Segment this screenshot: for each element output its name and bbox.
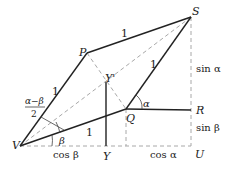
label-cos-alpha: cos α — [150, 149, 177, 160]
label-beta: β — [58, 135, 65, 146]
side-PS — [87, 17, 191, 53]
label-VQ-length: 1 — [86, 126, 93, 139]
label-S: S — [192, 5, 200, 18]
label-sin-alpha: sin α — [196, 63, 221, 74]
label-Y: Y — [103, 150, 112, 163]
label-P: P — [78, 46, 87, 59]
label-Q: Q — [126, 112, 135, 125]
label-alpha: α — [143, 98, 150, 109]
label-R: R — [195, 104, 204, 117]
label-V: V — [12, 139, 21, 152]
rhombus-trig-diagram: P S Q R U V Y Y' 1 1 1 1 α β α−β 2 sin α… — [0, 0, 233, 170]
label-sin-beta: sin β — [196, 122, 220, 133]
side-QS — [126, 17, 191, 109]
label-cos-beta: cos β — [53, 149, 79, 160]
segment-QR — [126, 109, 191, 110]
diagram-svg: P S Q R U V Y Y' 1 1 1 1 α β α−β 2 sin α… — [0, 0, 233, 170]
label-half-diff-numerator: α−β — [25, 96, 44, 106]
label-U: U — [195, 148, 205, 161]
alpha-arc — [136, 95, 142, 109]
label-VP-length: 1 — [52, 85, 59, 98]
label-Yprime: Y' — [105, 72, 115, 85]
label-PS-length: 1 — [121, 27, 128, 40]
label-half-diff-denominator: 2 — [31, 109, 37, 119]
label-QS-length: 1 — [150, 58, 157, 71]
